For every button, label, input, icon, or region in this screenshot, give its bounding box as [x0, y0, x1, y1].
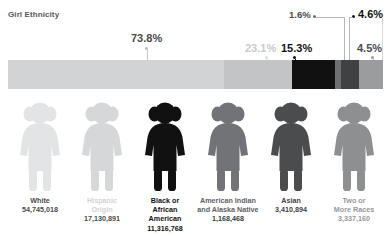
girl-figure-hispanic: [76, 101, 128, 193]
girl-figure-two: [328, 101, 380, 193]
legend-count-asian: 3,410,894: [260, 205, 322, 214]
legend-name-asian: Asian: [260, 196, 322, 205]
legend-item-aian: American Indian and Alaska Native 1,168,…: [186, 196, 270, 224]
leader-line-aian-vertical: [344, 17, 345, 61]
leader-bracket-vertical: [382, 17, 383, 62]
legend-item-asian: Asian 3,410,894: [260, 196, 322, 214]
girl-figure-black: [139, 101, 191, 193]
legend-count-black: 11,316,768: [133, 224, 197, 233]
bar-segment-asian[interactable]: [341, 60, 358, 89]
legend-item-hispanic: Hispanic Origin 17,130,891: [70, 196, 134, 224]
callout-pct-hispanic: 23.1%: [245, 43, 276, 54]
legend-name-white: White: [8, 196, 72, 205]
bar-segment-hispanic[interactable]: [224, 60, 292, 89]
leader-line-aian-horizontal: [316, 17, 345, 18]
infographic-canvas: Girl Ethnicity 73.8% 23.1% 15.3% 1.6% 4.…: [0, 0, 391, 236]
legend-count-two: 3,337,160: [322, 214, 386, 223]
callout-pct-black: 15.3%: [281, 43, 312, 54]
legend-name-hispanic-line2: Origin: [70, 205, 134, 214]
callout-pct-asian: 4.6%: [358, 9, 383, 20]
legend-count-aian: 1,168,468: [186, 214, 270, 223]
legend-labels: White 54,745,018 Hispanic Origin 17,130,…: [0, 196, 391, 236]
legend-name-two-line2: More Races: [322, 205, 386, 214]
callout-pct-two: 4.5%: [357, 43, 382, 54]
girl-figure-white: [14, 101, 66, 193]
legend-name-aian-line2: and Alaska Native: [186, 205, 270, 214]
girl-figure-asian: [265, 101, 317, 193]
pictogram-row: [0, 101, 391, 193]
leader-line-asian-vertical: [349, 17, 350, 61]
stacked-bar[interactable]: [8, 60, 383, 89]
bar-segment-black[interactable]: [292, 60, 336, 89]
legend-item-two: Two or More Races 3,337,160: [322, 196, 386, 224]
legend-item-white: White 54,745,018: [8, 196, 72, 214]
girl-figure-aian: [202, 101, 254, 193]
legend-count-white: 54,745,018: [8, 205, 72, 214]
legend-name-aian-line1: American Indian: [186, 196, 270, 205]
callout-pct-white: 73.8%: [131, 33, 162, 44]
legend-name-hispanic-line1: Hispanic: [70, 196, 134, 205]
page-title: Girl Ethnicity: [8, 10, 59, 19]
legend-name-two-line1: Two or: [322, 196, 386, 205]
callout-pct-aian: 1.6%: [289, 10, 311, 20]
bar-segment-two[interactable]: [359, 60, 383, 89]
legend-count-hispanic: 17,130,891: [70, 214, 134, 223]
bar-segment-white[interactable]: [8, 60, 224, 89]
